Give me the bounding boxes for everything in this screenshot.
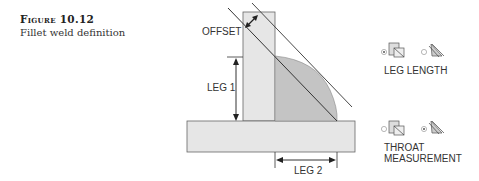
leg1-arrowhead-top [233,58,239,65]
leg-length-diagonal-icon [429,44,444,57]
throat-option-right[interactable] [421,121,444,134]
leg-length-option-left[interactable] [381,43,404,57]
leg1-label: LEG 1 [207,82,236,93]
radio-unselected-icon[interactable] [381,126,386,131]
throat-square-icon [389,121,404,135]
offset-label: OFFSET [202,26,241,37]
leg1-arrowhead-bottom [233,114,239,121]
leg-length-option-right[interactable] [421,44,444,57]
throat-option-left[interactable] [381,121,404,135]
radio-unselected-icon[interactable] [421,49,426,54]
leg2-arrowhead-left [276,157,283,163]
throat-diagonal-icon [429,121,444,134]
leg2-label: LEG 2 [294,165,323,176]
throat-label-line1: THROAT [384,142,424,153]
leg2-arrowhead-right [329,157,336,163]
leg-length-label: LEG LENGTH [384,65,447,76]
leg-length-square-icon [389,43,404,57]
throat-label-line2: MEASUREMENT [384,153,462,164]
horizontal-plate [187,121,355,152]
